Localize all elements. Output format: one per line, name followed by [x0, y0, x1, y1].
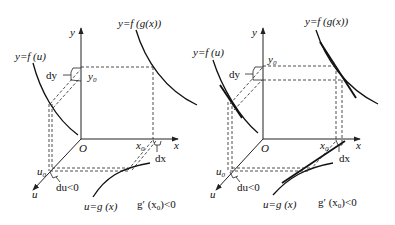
f-of-g-of-x-label: y=f (g(x)) [304, 15, 348, 28]
curve-f-of-g-of-x [136, 30, 197, 105]
u0-label: u0 [216, 165, 226, 179]
right-panel: y x u O y=f (u) y=f (g(x)) u=g (x) y0 x0… [192, 15, 378, 211]
x-axis-label: x [355, 139, 361, 151]
y-axis-label: y [251, 26, 257, 38]
origin-label: O [261, 142, 269, 154]
g-of-x-label: u=g (x) [84, 200, 118, 213]
derivative-condition-label: g′ (x0)<0 [318, 196, 357, 210]
dy-bracket [71, 68, 81, 81]
dx-label: dx [339, 152, 351, 164]
dy-label: dy [46, 69, 58, 81]
dx-label: dx [155, 152, 167, 164]
g-of-x-label: u=g (x) [263, 198, 297, 211]
tangent-f-of-u [220, 85, 242, 118]
u0-label: u0 [37, 165, 47, 179]
y0-label: y0 [267, 53, 277, 67]
u-axis-label: u [32, 188, 38, 200]
du-bracket [50, 172, 58, 178]
du-label: du<0 [237, 181, 260, 193]
derivative-condition-label: g′ (x0)<0 [137, 198, 176, 212]
chain-rule-diagram: y x u O y=f (u) y=f (g(x)) u=g (x) y0 x0… [0, 0, 395, 225]
f-of-g-of-x-label: y=f (g(x)) [117, 17, 161, 30]
curve-f-of-g-of-x [316, 30, 378, 104]
dx-bracket [153, 140, 161, 145]
origin-label: O [79, 142, 87, 154]
du-label: du<0 [56, 181, 79, 193]
tangent-f-of-g-of-x [320, 42, 356, 98]
tangent-g-of-x [282, 141, 345, 183]
f-of-u-label: y=f (u) [14, 50, 46, 63]
dash-diag-top-b [53, 78, 80, 108]
u-axis-label: u [210, 188, 216, 200]
x-axis-label: x [173, 139, 179, 151]
y0-label: y0 [87, 70, 97, 84]
f-of-u-label: y=f (u) [192, 46, 224, 59]
dy-label: dy [229, 68, 241, 80]
curve-g-of-x [93, 163, 150, 197]
y-axis-label: y [69, 26, 75, 38]
x0-label: x0 [319, 139, 329, 153]
x0-label: x0 [135, 139, 145, 153]
left-panel: y x u O y=f (u) y=f (g(x)) u=g (x) y0 x0… [14, 17, 197, 213]
